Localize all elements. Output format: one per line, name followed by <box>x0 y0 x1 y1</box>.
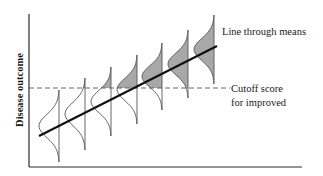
shaded-region <box>117 55 137 124</box>
distribution-curves <box>39 15 214 162</box>
distribution-curve <box>39 90 59 162</box>
cutoff-label: Cutoff score for improved <box>231 82 286 110</box>
shaded-region <box>39 90 59 162</box>
distribution-curve <box>117 55 137 124</box>
y-axis-label: Disease outcome <box>14 53 25 127</box>
regression-line-label: Line through means <box>222 26 306 37</box>
cutoff-label-line2: for improved <box>231 96 286 110</box>
cutoff-label-line1: Cutoff score <box>231 82 286 96</box>
regression-line <box>39 46 217 136</box>
